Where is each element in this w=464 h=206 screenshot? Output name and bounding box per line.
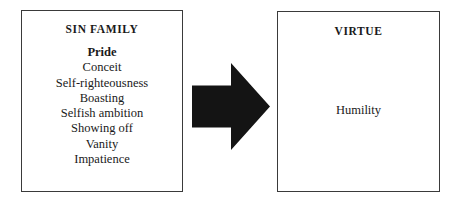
arrow-right-icon: [190, 60, 272, 154]
arrow-right-shape: [192, 63, 270, 150]
sin-list-item: Self-righteousness: [22, 76, 182, 91]
sin-list-item: Conceit: [22, 60, 182, 75]
virtue-panel: VIRTUE Humility: [277, 11, 440, 192]
sin-family-panel: SIN FAMILY PrideConceitSelf-righteousnes…: [21, 10, 183, 192]
sin-list-item: Impatience: [22, 152, 182, 167]
sin-virtue-diagram: SIN FAMILY PrideConceitSelf-righteousnes…: [0, 0, 464, 206]
virtue-panel-content: VIRTUE Humility: [278, 12, 439, 191]
virtue-heading: VIRTUE: [335, 25, 383, 37]
sin-family-heading: SIN FAMILY: [66, 23, 139, 35]
virtue-list-item: Humility: [336, 103, 381, 118]
sin-list-item: Vanity: [22, 137, 182, 152]
sin-list-item: Pride: [22, 45, 182, 60]
sin-list-item: Selfish ambition: [22, 106, 182, 121]
virtue-list: Humility: [278, 37, 439, 191]
sin-list-item: Showing off: [22, 121, 182, 136]
sin-family-panel-content: SIN FAMILY PrideConceitSelf-righteousnes…: [22, 11, 182, 191]
sin-list-item: Boasting: [22, 91, 182, 106]
sin-family-list: PrideConceitSelf-righteousnessBoastingSe…: [22, 45, 182, 167]
